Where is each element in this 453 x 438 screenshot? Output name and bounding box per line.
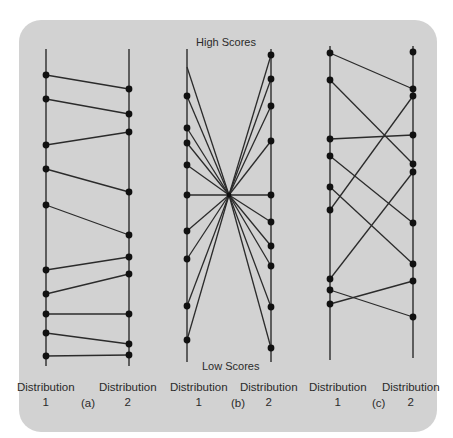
distribution-1-dot [184, 228, 191, 235]
distribution-1-dot [43, 291, 50, 298]
connecting-line [187, 195, 229, 340]
distribution-1-dot [43, 96, 50, 103]
distribution-1-dot [327, 153, 334, 160]
distribution-1-dot [184, 337, 191, 344]
distribution-1-dot [327, 136, 334, 143]
panel-b-distribution-2-label: Distribution 2 [240, 380, 298, 410]
connecting-line [330, 281, 413, 304]
distribution-1-dot [327, 77, 334, 84]
connecting-line [46, 169, 129, 192]
panel-b-distribution-1-label: Distribution 1 [170, 380, 228, 410]
distribution-number: 2 [382, 395, 440, 410]
distribution-2-dot [126, 254, 133, 261]
distribution-1-dot [43, 166, 50, 173]
panel-a-distribution-2-label: Distribution 2 [99, 380, 157, 410]
low-scores-label: Low Scores [202, 360, 259, 372]
distribution-1-dot [327, 276, 334, 283]
distribution-1-dot [43, 330, 50, 337]
distribution-2-dot [126, 86, 133, 93]
distribution-1-dot [327, 287, 334, 294]
panel-c-distribution-1-label: Distribution 1 [309, 380, 367, 410]
distribution-number: 1 [170, 395, 228, 410]
connecting-line [46, 99, 129, 114]
distribution-title: Distribution [382, 381, 440, 393]
distribution-2-dot [410, 132, 417, 139]
distribution-2-dot [268, 263, 275, 270]
distribution-1-dot [327, 184, 334, 191]
distribution-2-dot [126, 341, 133, 348]
connecting-line [229, 195, 271, 266]
distribution-2-dot [268, 345, 275, 352]
distribution-1-dot [43, 202, 50, 209]
connecting-line [46, 257, 129, 270]
connecting-line [330, 156, 413, 223]
distribution-1-dot [327, 50, 334, 57]
distribution-2-dot [268, 192, 275, 199]
distribution-2-dot [410, 314, 417, 321]
distribution-2-dot [268, 243, 275, 250]
distribution-1-dot [184, 303, 191, 310]
distribution-2-dot [410, 169, 417, 176]
distribution-2-dot [410, 49, 417, 56]
distribution-1-dot [327, 207, 334, 214]
distribution-1-dot [43, 142, 50, 149]
panel-b-crossing-lines [184, 49, 275, 362]
distribution-2-dot [268, 103, 275, 110]
distribution-2-dot [268, 304, 275, 311]
distribution-1-dot [43, 353, 50, 360]
distribution-2-dot [126, 271, 133, 278]
distribution-number: 1 [17, 395, 75, 410]
distribution-title: Distribution [170, 381, 228, 393]
distribution-1-dot [184, 256, 191, 263]
distribution-1-dot [184, 140, 191, 147]
connecting-line [330, 172, 413, 279]
panel-c-distribution-2-label: Distribution 2 [382, 380, 440, 410]
crossing-point-dot [227, 193, 232, 198]
distribution-2-dot [410, 93, 417, 100]
distribution-2-dot [410, 278, 417, 285]
connecting-line [330, 135, 413, 139]
connecting-line [330, 80, 413, 164]
connecting-line [229, 195, 271, 246]
panel-a-distribution-1-label: Distribution 1 [17, 380, 75, 410]
distribution-2-dot [410, 86, 417, 93]
connecting-line [229, 79, 271, 195]
connecting-line [330, 290, 413, 317]
distribution-1-dot [184, 93, 191, 100]
distribution-number: 1 [309, 395, 367, 410]
connecting-line [187, 128, 229, 195]
distribution-title: Distribution [309, 381, 367, 393]
connecting-line [46, 333, 129, 344]
distribution-title: Distribution [17, 381, 75, 393]
connecting-line [46, 132, 129, 145]
connecting-line [330, 96, 413, 210]
distribution-2-dot [268, 52, 275, 59]
distribution-number: 2 [240, 395, 298, 410]
connecting-line [46, 205, 129, 235]
distribution-1-dot [43, 267, 50, 274]
distribution-2-dot [268, 219, 275, 226]
panel-c-mixed-lines [327, 46, 417, 360]
distribution-2-dot [126, 189, 133, 196]
distribution-number: 2 [99, 395, 157, 410]
high-scores-label: High Scores [196, 36, 256, 48]
distribution-1-dot [184, 162, 191, 169]
distribution-2-dot [410, 220, 417, 227]
distribution-2-dot [126, 111, 133, 118]
connecting-line [187, 67, 229, 195]
connecting-line [46, 274, 129, 294]
panel-a-parallel-lines [43, 49, 133, 366]
distribution-2-dot [268, 138, 275, 145]
distribution-1-dot [184, 192, 191, 199]
distribution-1-dot [184, 125, 191, 132]
distribution-2-dot [126, 232, 133, 239]
distribution-1-dot [43, 311, 50, 318]
distribution-2-dot [126, 352, 133, 359]
connecting-line [46, 75, 129, 89]
distribution-2-dot [126, 129, 133, 136]
connecting-line [229, 106, 271, 195]
connecting-line [330, 53, 413, 89]
distribution-2-dot [268, 76, 275, 83]
distribution-2-dot [410, 261, 417, 268]
distribution-comparison-diagram [0, 0, 453, 438]
